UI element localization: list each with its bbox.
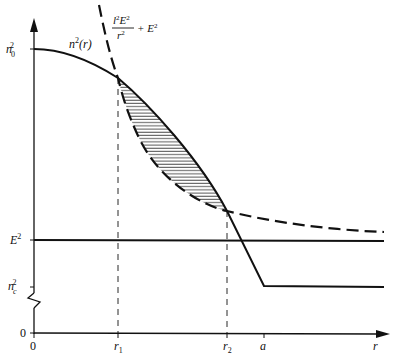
n-squared-profile-curve (34, 49, 384, 287)
diagram-canvas: n02 E2 nc2 0 0 r1 r2 a r n2(r) l2E2 r2 +… (0, 0, 400, 361)
potential-label: l2E2 r2 + E2 (112, 14, 158, 41)
y-axis (28, 18, 40, 334)
shaded-region (118, 78, 227, 211)
nc-squared-label: nc2 (8, 278, 17, 296)
r-axis-label: r (373, 339, 378, 353)
r2-label: r2 (223, 339, 232, 355)
n0-squared-label: n02 (6, 41, 15, 59)
E-squared-label: E2 (9, 232, 21, 247)
x-origin-label: 0 (30, 339, 36, 353)
profile-label: n2(r) (69, 36, 92, 51)
svg-text:r2: r2 (117, 29, 125, 41)
svg-text:+ E2: + E2 (137, 22, 158, 34)
arrow-right-icon (376, 330, 390, 338)
svg-text:l2E2: l2E2 (113, 14, 130, 26)
y-zero-label: 0 (20, 326, 26, 340)
axis-break-icon (28, 293, 40, 308)
r1-label: r1 (114, 339, 123, 355)
a-label: a (260, 339, 266, 353)
x-axis (34, 330, 390, 338)
arrow-up-icon (30, 18, 38, 32)
E-squared-line (34, 240, 384, 241)
